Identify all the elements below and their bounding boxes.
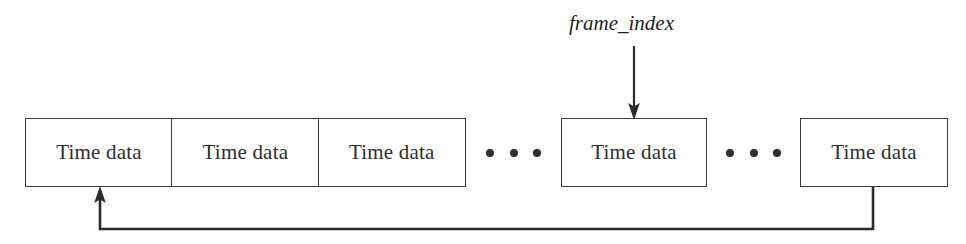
frame-box-2[interactable]: Time data xyxy=(171,118,319,187)
frame-index-label: frame_index xyxy=(569,13,674,34)
frame-box-1[interactable]: Time data xyxy=(25,118,173,187)
wrap-around-connector xyxy=(94,186,873,229)
ellipsis-dot xyxy=(750,149,758,157)
ellipsis-dot xyxy=(533,149,541,157)
frame-buffer-diagram: Time data Time data Time data Time data … xyxy=(0,0,966,244)
ellipsis-dot xyxy=(726,149,734,157)
ellipsis-dot xyxy=(773,149,781,157)
frame-box-3[interactable]: Time data xyxy=(318,118,466,187)
frame-box-last[interactable]: Time data xyxy=(800,118,948,187)
frame-box-label: Time data xyxy=(56,142,142,163)
frame-box-label: Time data xyxy=(203,142,289,163)
frame-index-pointer-arrow xyxy=(628,46,640,120)
ellipsis-dot xyxy=(510,149,518,157)
frame-box-label: Time data xyxy=(349,142,435,163)
ellipsis-dot xyxy=(486,149,494,157)
frame-box-label: Time data xyxy=(591,142,677,163)
ellipsis-left xyxy=(486,148,541,158)
frame-box-label: Time data xyxy=(831,142,917,163)
frame-box-current[interactable]: Time data xyxy=(561,118,707,187)
ellipsis-right xyxy=(726,148,781,158)
